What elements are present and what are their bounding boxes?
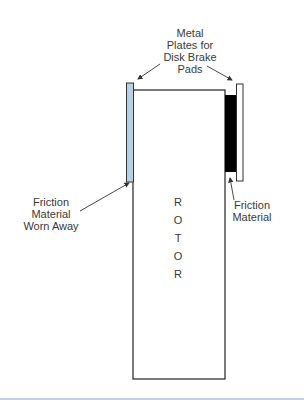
worn-material-label: Friction Material Worn Away bbox=[18, 196, 84, 232]
arrow-worn-material bbox=[80, 183, 129, 211]
friction-material-label: Friction Material bbox=[226, 199, 278, 223]
rotor-letter: R bbox=[166, 193, 190, 211]
title-line: Pads bbox=[150, 63, 230, 75]
rotor-letter: R bbox=[166, 265, 190, 283]
bottom-divider bbox=[0, 398, 304, 400]
rotor-letter: O bbox=[166, 211, 190, 229]
right-friction-material bbox=[225, 95, 236, 172]
rotor-label: R O T O R bbox=[166, 193, 190, 283]
title-line: Plates for bbox=[150, 39, 230, 51]
metal-plates-label: Metal Plates for Disk Brake Pads bbox=[150, 27, 230, 75]
title-line: Metal bbox=[150, 27, 230, 39]
title-line: Disk Brake bbox=[150, 51, 230, 63]
left-metal-plate bbox=[127, 83, 134, 182]
label-line: Material bbox=[226, 211, 278, 223]
label-line: Friction bbox=[18, 196, 84, 208]
label-line: Worn Away bbox=[18, 220, 84, 232]
right-metal-plate bbox=[237, 84, 244, 181]
rotor-letter: O bbox=[166, 247, 190, 265]
label-line: Friction bbox=[226, 199, 278, 211]
arrow-friction-material bbox=[230, 178, 234, 200]
label-line: Material bbox=[18, 208, 84, 220]
rotor-letter: T bbox=[166, 229, 190, 247]
